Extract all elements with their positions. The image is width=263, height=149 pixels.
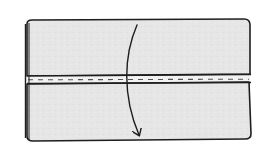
fold-diagram-canvas: [0, 0, 263, 149]
top-panel: [27, 19, 250, 76]
seam-bottom-edge: [27, 83, 251, 84]
fold-diagram: Rectangular piece of fabric with a stitc…: [0, 0, 263, 149]
bottom-panel: [27, 82, 251, 141]
